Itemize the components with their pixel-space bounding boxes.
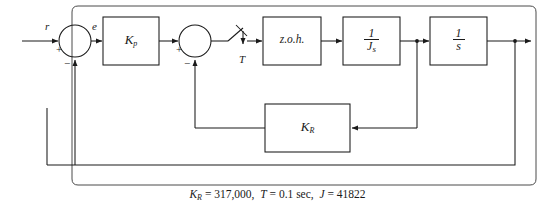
kr-subscript: R (309, 126, 314, 135)
caption-kr-symbol: K (189, 188, 197, 200)
caption-kr-sub: R (197, 193, 202, 202)
figure-canvas: r e T + − + − Kp z.o.h. 1 Js 1 s KR KR =… (0, 0, 555, 209)
caption-t-symbol: T (260, 188, 266, 200)
sample-period-label: T (239, 53, 245, 65)
js-denominator-sub: s (372, 44, 376, 54)
zoh-block-label: z.o.h. (263, 33, 321, 45)
integrator-block-label: 1 s (430, 27, 487, 54)
sum1-minus-sign: − (64, 57, 70, 69)
outer-feedback-path (47, 41, 515, 165)
kr-block-label: KR (265, 119, 350, 135)
sampler-switch-contact (236, 25, 247, 36)
caption-kr-value: = 317,000, (205, 188, 255, 200)
caption-j-value: = 41822 (327, 188, 365, 200)
caption-j-symbol: J (319, 188, 324, 200)
error-signal-label: e (92, 20, 97, 32)
kp-subscript: p (133, 39, 137, 48)
js-block-label: 1 Js (343, 27, 400, 54)
summing-junction-1 (59, 25, 91, 57)
reference-signal-label: r (45, 20, 49, 32)
figure-caption: KR = 317,000, T = 0.1 sec, J = 41822 (0, 188, 555, 202)
sum2-minus-sign: − (184, 57, 190, 69)
sum2-plus-sign: + (176, 43, 182, 55)
caption-t-value: = 0.1 sec, (270, 188, 314, 200)
sum1-plus-sign: + (56, 43, 62, 55)
integrator-denominator: s (453, 40, 465, 52)
kp-block-label: Kp (103, 32, 159, 48)
summing-junction-2 (179, 25, 211, 57)
